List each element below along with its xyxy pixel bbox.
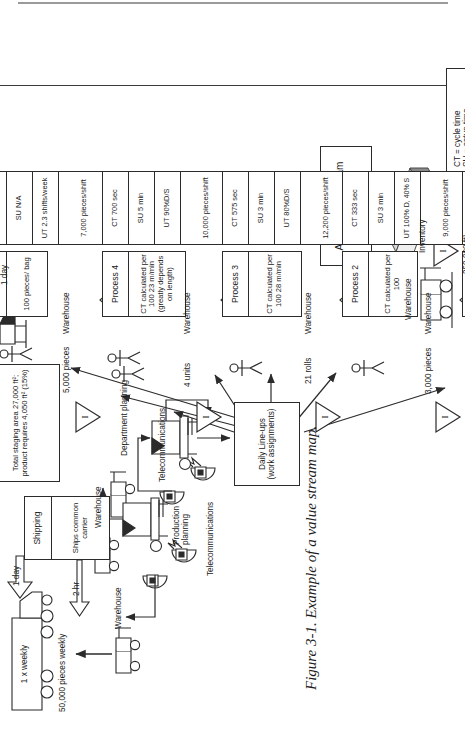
shipping-transit-time: 2 hr bbox=[72, 582, 81, 596]
process-3-box: Process 3 CT calculated per 100 28 m/min bbox=[222, 251, 302, 317]
package-station-su: SU N/A bbox=[15, 196, 23, 221]
process1-wip-label: 3,000 pieces bbox=[424, 348, 433, 394]
truck-icon bbox=[12, 592, 53, 710]
computer-workstation-icon bbox=[123, 498, 168, 552]
process-2-ut: UT 100% D, 40% S bbox=[403, 178, 411, 239]
svg-text:I: I bbox=[438, 250, 448, 253]
forklift-icon bbox=[115, 628, 140, 673]
shipping-detail: Ships common carrier bbox=[72, 500, 89, 556]
process-3-data-box: CT 575 sec SU 3 min UT 80%D/S 12,200 pie… bbox=[222, 171, 350, 245]
process3-wip-label: 4 units bbox=[183, 363, 192, 387]
process-2-output: 9,000 pieces/shift bbox=[442, 179, 450, 237]
package-station-data-box: CT 240 sec SU N/A UT 2.3 shifts/week 7,0… bbox=[0, 171, 108, 245]
process-4-name: Process 4 bbox=[111, 265, 121, 303]
package-station-note: 100 pieces/ bag bbox=[23, 257, 32, 311]
package-station-ut: UT 2.3 shifts/week bbox=[41, 178, 49, 239]
process4-wip-label: 5,000 pieces bbox=[62, 347, 71, 393]
process-2-ct: CT 333 sec bbox=[351, 189, 359, 227]
process-2-name: Process 2 bbox=[351, 265, 361, 303]
telecommunications-label-2: Telecommunications bbox=[158, 408, 167, 482]
staging-warehouse-label: Warehouse bbox=[94, 486, 103, 528]
telecom-signal-icon bbox=[187, 458, 215, 480]
process2-wip-label: 21 rolls bbox=[304, 358, 313, 384]
svg-text:I: I bbox=[320, 416, 330, 419]
process-4-su: SU 5 min bbox=[137, 193, 145, 223]
process-4-box: Process 4 CT calculated per 100 23 m/min… bbox=[102, 251, 186, 317]
process-2-note: CT calculated per 100 bbox=[384, 254, 401, 314]
operators-icon bbox=[230, 360, 262, 376]
process-2-su: SU 3 min bbox=[377, 193, 385, 223]
value-stream-map-figure: I I I I I I bbox=[0, 85, 465, 750]
production-planning-label: Production planning bbox=[172, 485, 191, 545]
daily-lineups-label: Daily Line-ups (work assignments) bbox=[258, 407, 277, 481]
process-3-ct: CT 575 sec bbox=[231, 189, 239, 227]
process4-transit-time: 1 day bbox=[0, 265, 9, 285]
process-4-output: 10,000 pieces/shift bbox=[202, 177, 210, 239]
process-4-ut: UT 90%D/S bbox=[163, 189, 171, 228]
process-3-name: Process 3 bbox=[231, 265, 241, 303]
process3-warehouse-label: Warehouse bbox=[183, 292, 192, 334]
process-3-ut: UT 80%D/S bbox=[283, 189, 291, 228]
process-3-output: 12,200 pieces/shift bbox=[322, 177, 330, 239]
department-planning-label: Department planning bbox=[120, 380, 129, 456]
process-4-note: CT calculated per 100 23 m/min (greatly … bbox=[140, 254, 174, 314]
customer-volume: 50,000 pieces weekly bbox=[58, 634, 67, 712]
daily-lineups-box: Daily Line-ups (work assignments) bbox=[234, 402, 300, 486]
process2-warehouse-label: Warehouse bbox=[304, 292, 313, 334]
svg-text:I: I bbox=[201, 416, 211, 419]
customer-frequency: 1 x weekly bbox=[20, 628, 29, 700]
svg-text:I: I bbox=[80, 416, 90, 419]
figure-caption: Figure 3-1. Example of a value stream ma… bbox=[303, 426, 320, 690]
staging-transit-time: 1 day bbox=[12, 566, 21, 586]
process-4-data-box: CT 700 sec SU 5 min UT 90%D/S 10,000 pie… bbox=[102, 171, 230, 245]
process-3-note: CT calculated per 100 28 m/min bbox=[266, 254, 283, 314]
shipping-warehouse-label: Warehouse bbox=[114, 587, 123, 629]
page-top-rule bbox=[18, 2, 448, 4]
process-2-data-box: CT 333 sec SU 3 min UT 100% D, 40% S 9,0… bbox=[342, 171, 465, 245]
process-4-ct: CT 700 sec bbox=[111, 189, 119, 227]
process4-warehouse-label: Warehouse bbox=[62, 292, 71, 334]
staging-box: Staging Total staging area 27,000 ft²; p… bbox=[0, 364, 60, 482]
legend-box: CT = cycle time SU = setup time UT = upt… bbox=[446, 68, 465, 176]
inventory-label: Inventory bbox=[418, 219, 427, 253]
legend-ct: CT = cycle time bbox=[453, 77, 462, 167]
packaging-machine-icon bbox=[0, 312, 26, 348]
process1-warehouse-label: Warehouse bbox=[424, 292, 433, 334]
shipping-title: Shipping bbox=[33, 511, 43, 544]
inventory-warehouse-label: Warehouse bbox=[404, 278, 413, 320]
package-station-output: 7,000 pieces/shift bbox=[80, 179, 88, 237]
process-3-su: SU 3 min bbox=[257, 193, 265, 223]
operators-icon bbox=[352, 360, 384, 376]
telecommunications-label-1: Telecommunications bbox=[206, 502, 215, 576]
staging-detail: Total staging area 27,000 ft²; product r… bbox=[12, 369, 29, 477]
operators-icon bbox=[108, 350, 144, 382]
svg-text:I: I bbox=[440, 416, 450, 419]
